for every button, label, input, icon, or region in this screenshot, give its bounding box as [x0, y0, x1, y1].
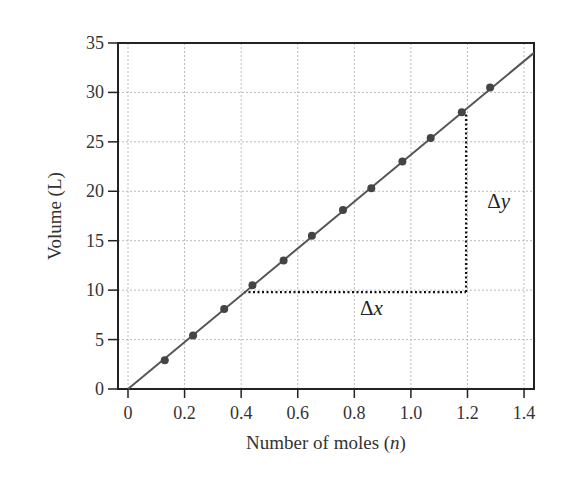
data-point — [220, 305, 228, 313]
data-point — [458, 108, 466, 116]
y-axis-title: Volume (L) — [44, 172, 66, 260]
x-tick-label: 0.6 — [286, 403, 309, 423]
x-tick-label: 1.4 — [513, 403, 536, 423]
y-tick-label: 10 — [86, 280, 104, 300]
chart: 00.20.40.60.81.01.21.4 05101520253035 Δx… — [0, 0, 561, 477]
data-point — [248, 281, 256, 289]
annotation-y: Δy — [487, 189, 511, 213]
data-point — [339, 206, 347, 214]
y-tick-label: 0 — [95, 379, 104, 399]
x-tick-label: 0.8 — [343, 403, 366, 423]
plot-border — [118, 43, 534, 389]
data-point — [367, 184, 375, 192]
y-tick-label: 35 — [86, 33, 104, 53]
y-tick-label: 15 — [86, 231, 104, 251]
x-tick-label: 0.2 — [173, 403, 196, 423]
x-axis-title: Number of moles (n) — [246, 432, 406, 454]
data-series — [128, 53, 534, 389]
plot-frame — [118, 43, 534, 389]
data-point — [427, 134, 435, 142]
x-tick-label: 1.0 — [400, 403, 423, 423]
data-point — [486, 83, 494, 91]
trend-line — [128, 53, 534, 389]
y-tick-label: 20 — [86, 181, 104, 201]
x-tick-label: 0 — [124, 403, 133, 423]
data-point — [280, 256, 288, 264]
x-tick-label: 1.2 — [456, 403, 479, 423]
data-point — [161, 356, 169, 364]
y-tick-label: 30 — [86, 82, 104, 102]
y-tick-label: 5 — [95, 330, 104, 350]
data-point — [308, 232, 316, 240]
annotations: ΔxΔy — [360, 189, 511, 320]
annotation-x: Δx — [360, 296, 384, 320]
grid-lines — [118, 43, 534, 389]
data-point — [189, 332, 197, 340]
data-point — [398, 158, 406, 166]
y-tick-label: 25 — [86, 132, 104, 152]
y-axis-ticks: 05101520253035 — [86, 33, 118, 399]
x-axis-ticks: 00.20.40.60.81.01.21.4 — [124, 389, 536, 423]
x-tick-label: 0.4 — [230, 403, 253, 423]
